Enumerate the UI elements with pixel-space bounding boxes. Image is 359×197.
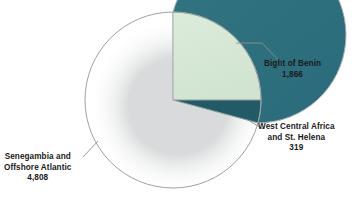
pie-label-west-central-africa: West Central Africa and St. Helena 319 [258, 122, 335, 154]
pie-label-bight-of-benin-value: 1,866 [264, 70, 321, 81]
pie-label-senegambia-name-line2: Offshore Atlantic [4, 163, 72, 174]
pie-label-senegambia-name-line1: Senegambia and [4, 152, 72, 163]
pie-label-senegambia-value: 4,808 [4, 173, 72, 184]
pie-label-bight-of-benin: Bight of Benin 1,866 [264, 59, 321, 80]
pie-chart: Bight of Benin 1,866 West Central Africa… [0, 0, 359, 197]
leader-line-senegambia [83, 141, 98, 157]
pie-label-west-central-africa-value: 319 [258, 143, 335, 154]
pie-label-senegambia: Senegambia and Offshore Atlantic 4,808 [4, 152, 72, 184]
pie-label-west-central-africa-name-line1: West Central Africa [258, 122, 335, 133]
pie-label-west-central-africa-name-line2: and St. Helena [258, 133, 335, 144]
pie-label-bight-of-benin-name: Bight of Benin [264, 59, 321, 70]
